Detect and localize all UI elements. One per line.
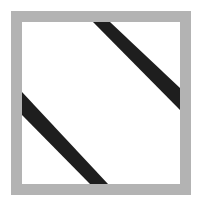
diagram-canvas (0, 0, 198, 201)
square-inner-area (22, 22, 180, 184)
diagonal-stripes-square-diagram (0, 0, 198, 201)
